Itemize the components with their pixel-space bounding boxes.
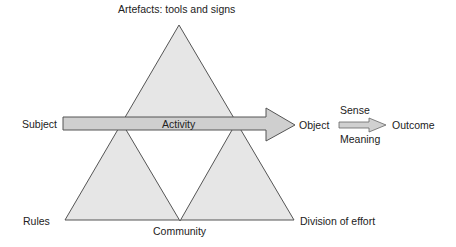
label-division-of-effort: Division of effort [300, 215, 375, 227]
label-sense: Sense [340, 104, 370, 116]
label-object: Object [299, 119, 329, 131]
activity-diagram [0, 0, 456, 247]
label-activity: Activity [162, 118, 195, 130]
label-meaning: Meaning [340, 133, 380, 145]
label-subject: Subject [22, 118, 57, 130]
label-rules: Rules [23, 215, 50, 227]
label-community: Community [153, 225, 206, 237]
outcome-arrow [339, 118, 386, 132]
label-outcome: Outcome [392, 119, 435, 131]
label-artefacts: Artefacts: tools and signs [118, 3, 235, 15]
